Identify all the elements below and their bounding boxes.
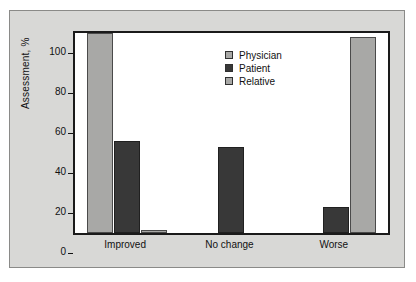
y-axis: Assessment, % 020406080100 xyxy=(22,31,73,235)
legend: PhysicianPatientRelative xyxy=(225,49,282,88)
x-axis-label-no-change: No change xyxy=(205,239,253,250)
legend-item-relative[interactable]: Relative xyxy=(225,75,282,87)
bar-improved-physician xyxy=(87,33,113,233)
bar-worse-relative xyxy=(350,37,376,233)
y-tick: 100 xyxy=(27,53,73,54)
legend-item-patient[interactable]: Patient xyxy=(225,62,282,74)
legend-item-physician[interactable]: Physician xyxy=(225,49,282,61)
y-tick: 0 xyxy=(27,253,73,254)
y-tick-label: 40 xyxy=(55,166,66,177)
x-axis-label-worse: Worse xyxy=(319,239,348,250)
legend-swatch-icon xyxy=(225,64,233,72)
figure-panel: Assessment, % 020406080100 PhysicianPati… xyxy=(9,10,405,268)
legend-label: Relative xyxy=(239,76,275,87)
legend-swatch-icon xyxy=(225,77,233,85)
y-tick: 40 xyxy=(27,173,73,174)
y-tick-label: 80 xyxy=(55,86,66,97)
bar-worse-patient xyxy=(323,207,349,233)
bar-group xyxy=(284,33,388,233)
bar-group xyxy=(75,33,179,233)
legend-label: Physician xyxy=(239,50,282,61)
x-axis-labels: ImprovedNo changeWorse xyxy=(73,239,390,259)
y-tick-label: 100 xyxy=(49,46,66,57)
bar-no-change-patient xyxy=(218,147,244,233)
bar-improved-patient xyxy=(114,141,140,233)
x-axis-label-improved: Improved xyxy=(104,239,146,250)
y-tick-label: 60 xyxy=(55,126,66,137)
y-tick: 20 xyxy=(27,213,73,214)
legend-label: Patient xyxy=(239,63,270,74)
bar-improved-relative xyxy=(141,230,167,233)
legend-swatch-icon xyxy=(225,51,233,59)
y-tick-label: 20 xyxy=(55,206,66,217)
y-tick: 80 xyxy=(27,93,73,94)
plot-area: PhysicianPatientRelative xyxy=(73,31,390,235)
y-tick-label: 0 xyxy=(60,246,66,257)
y-tick: 60 xyxy=(27,133,73,134)
